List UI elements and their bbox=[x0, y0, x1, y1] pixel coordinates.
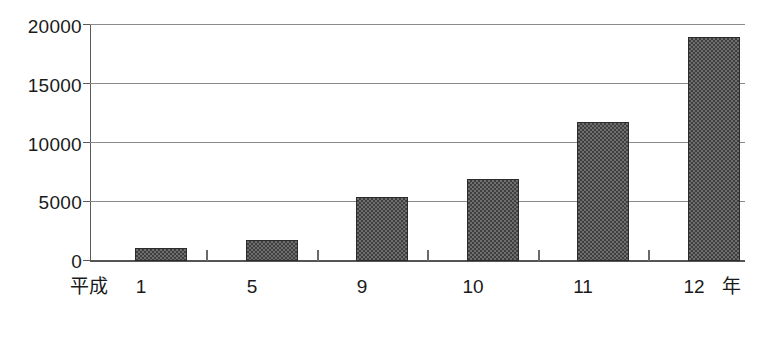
bar-heisei-11 bbox=[577, 122, 629, 261]
y-tick-mark-0 bbox=[83, 260, 90, 261]
x-tick-label-1: 1 bbox=[126, 277, 156, 296]
y-tick-label-20000: 20000 bbox=[4, 17, 82, 36]
x-tick-label-10: 10 bbox=[458, 277, 488, 296]
x-tick-mark-4 bbox=[538, 250, 540, 261]
y-tick-mark-15000 bbox=[83, 83, 90, 84]
x-tick-mark-1 bbox=[206, 250, 208, 261]
bar-chart: 20000 15000 10000 5000 0 平成 1 5 bbox=[0, 0, 759, 341]
y-tick-label-5000: 5000 bbox=[4, 193, 82, 212]
x-tick-mark-5 bbox=[648, 250, 650, 261]
x-axis-unit-suffix: 年 bbox=[722, 277, 741, 296]
x-tick-label-9: 9 bbox=[347, 277, 377, 296]
bar-heisei-9 bbox=[356, 197, 408, 261]
x-axis-baseline bbox=[90, 260, 745, 262]
x-tick-mark-3 bbox=[427, 250, 429, 261]
bar-heisei-5 bbox=[246, 240, 298, 261]
bar-heisei-1 bbox=[135, 248, 187, 261]
gridline-20000 bbox=[90, 24, 745, 25]
x-tick-label-12: 12 bbox=[679, 277, 709, 296]
x-tick-mark-2 bbox=[317, 250, 319, 261]
y-tick-mark-20000 bbox=[83, 24, 90, 25]
gridline-5000 bbox=[90, 201, 745, 202]
gridline-10000 bbox=[90, 142, 745, 143]
y-tick-label-10000: 10000 bbox=[4, 135, 82, 154]
plot-area bbox=[90, 24, 745, 261]
y-tick-mark-10000 bbox=[83, 142, 90, 143]
bar-heisei-10 bbox=[467, 179, 519, 261]
y-tick-mark-5000 bbox=[83, 201, 90, 202]
bar-heisei-12 bbox=[688, 37, 740, 261]
x-tick-label-5: 5 bbox=[237, 277, 267, 296]
x-axis-labels: 平成 1 5 9 10 11 12 年 bbox=[0, 277, 759, 311]
x-tick-label-11: 11 bbox=[568, 277, 598, 296]
y-tick-label-15000: 15000 bbox=[4, 76, 82, 95]
x-axis-era-prefix: 平成 bbox=[70, 277, 108, 296]
gridline-15000 bbox=[90, 83, 745, 84]
y-tick-label-0: 0 bbox=[4, 252, 82, 271]
